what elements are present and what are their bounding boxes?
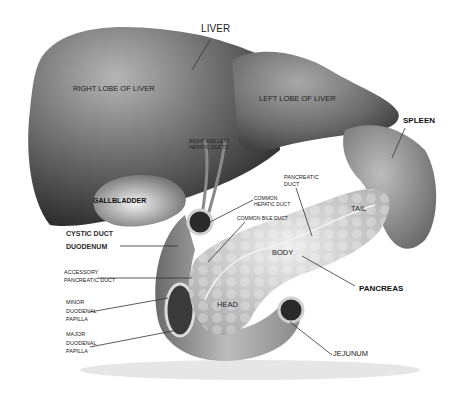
- label-minor-duodenal-papilla: MINOR DUODENAL PAPILLA: [66, 298, 97, 324]
- label-minor-line3: PAPILLA: [66, 315, 97, 324]
- label-accessory-line2: PANCREATIC DUCT: [64, 277, 115, 285]
- label-tail: TAIL: [351, 205, 366, 214]
- label-common-hepatic-duct: COMMON HEPATIC DUCT: [254, 195, 290, 207]
- label-major-line1: MAJOR: [66, 330, 97, 339]
- anatomy-diagram: LIVER RIGHT LOBE OF LIVER LEFT LOBE OF L…: [0, 0, 458, 395]
- label-pancreas: PANCREAS: [359, 284, 403, 293]
- label-pancreatic-duct-line2: DUCT: [284, 181, 319, 188]
- label-minor-line1: MINOR: [66, 298, 97, 307]
- label-gallbladder: GALLBLADDER: [93, 197, 146, 205]
- label-jejunum: JEJUNUM: [333, 350, 368, 359]
- label-minor-line2: DUODENAL: [66, 307, 97, 316]
- label-major-duodenal-papilla: MAJOR DUODENAL PAPILLA: [66, 330, 97, 356]
- label-common-bile-duct: COMMON BILE DUCT: [237, 215, 288, 221]
- label-major-line2: DUODENAL: [66, 339, 97, 348]
- label-body: BODY: [272, 249, 293, 258]
- duodenum-upper-section: [188, 210, 212, 234]
- label-liver: LIVER: [201, 23, 230, 35]
- label-right-lobe: RIGHT LOBE OF LIVER: [73, 85, 155, 94]
- label-left-lobe: LEFT LOBE OF LIVER: [259, 95, 336, 104]
- jejunum-section: [279, 298, 303, 322]
- label-cystic-duct: CYSTIC DUCT: [66, 230, 113, 238]
- label-accessory-line1: ACCESSORY: [64, 269, 115, 277]
- label-accessory-pancreatic-duct: ACCESSORY PANCREATIC DUCT: [64, 269, 115, 284]
- label-common-hepatic-line2: HEPATIC DUCT: [254, 201, 290, 207]
- shadow: [80, 360, 420, 380]
- label-hepatic-ducts: RIGHT AND LEFT HEPATIC DUCTS: [189, 138, 230, 150]
- label-pancreatic-duct-line1: PANCREATIC: [284, 174, 319, 181]
- label-major-line3: PAPILLA: [66, 347, 97, 356]
- label-hepatic-ducts-line2: HEPATIC DUCTS: [189, 144, 230, 150]
- label-pancreatic-duct: PANCREATIC DUCT: [284, 174, 319, 187]
- label-spleen: SPLEEN: [403, 116, 435, 125]
- label-head: HEAD: [217, 301, 238, 310]
- label-duodenum: DUODENUM: [66, 243, 107, 251]
